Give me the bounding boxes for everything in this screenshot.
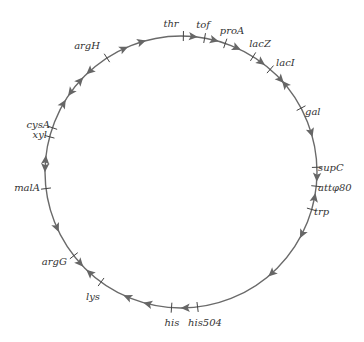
marker-tick-lys — [98, 278, 104, 286]
arrow-ccw-icon — [65, 86, 77, 98]
arrow-cw-icon — [306, 127, 317, 138]
gene-label: thr — [163, 18, 179, 29]
arrow-cw-icon — [255, 56, 267, 68]
marker-tick-lacZ — [250, 52, 255, 60]
marker-ticks — [41, 31, 322, 313]
gene-label: trp — [314, 206, 330, 217]
marker-tick-argH — [104, 54, 109, 62]
gene-label: his — [165, 317, 180, 328]
arrow-ccw-icon — [51, 222, 62, 234]
gene-label: attφ80 — [318, 182, 352, 193]
arrow-cw-icon — [118, 43, 130, 54]
gene-label: supC — [318, 162, 344, 173]
marker-tick-his — [171, 303, 172, 313]
arrow-cw-icon — [136, 36, 147, 47]
gene-labels: thrtofproAlacZlacIgalsupCattφ80trphis504… — [14, 18, 352, 328]
arrow-cw-icon — [142, 299, 153, 309]
arrow-cw-icon — [122, 291, 134, 302]
marker-tick-malA — [41, 188, 51, 189]
gene-label: his504 — [188, 317, 222, 328]
marker-tick-argG — [70, 253, 78, 259]
gene-label: tof — [196, 19, 212, 30]
gene-label: gal — [305, 106, 321, 117]
gene-label: lacI — [276, 57, 296, 68]
arrow-cw-icon — [231, 42, 243, 53]
gene-label: malA — [14, 182, 40, 193]
gene-label: argG — [42, 256, 67, 267]
gene-label: lys — [86, 291, 100, 302]
replication-arrows — [41, 32, 322, 312]
gene-label: argH — [74, 40, 100, 51]
arrow-cw-icon — [209, 35, 220, 45]
gene-label: cysA — [26, 119, 50, 130]
genetic-map: thrtofproAlacZlacIgalsupCattφ80trphis504… — [0, 0, 364, 342]
marker-tick-his504 — [197, 302, 198, 312]
arrow-cw-icon — [296, 228, 308, 240]
arrow-cw-icon — [58, 98, 70, 110]
chromosome-circle — [45, 36, 317, 308]
gene-label: lacZ — [249, 38, 272, 49]
gene-label: xyl — [33, 129, 48, 140]
gene-label: proA — [220, 25, 244, 36]
